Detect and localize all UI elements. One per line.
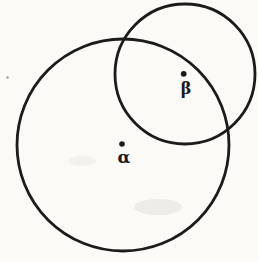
- alpha-center-dot: [119, 141, 125, 147]
- scanned-page: α β: [0, 0, 258, 262]
- scan-smudge: [134, 199, 182, 215]
- alpha-label: α: [117, 147, 130, 167]
- two-circle-diagram: α β: [0, 0, 258, 262]
- beta-center-dot: [181, 71, 187, 77]
- beta-label: β: [181, 79, 192, 98]
- scan-smudge: [68, 156, 96, 166]
- scan-speck: [6, 76, 8, 78]
